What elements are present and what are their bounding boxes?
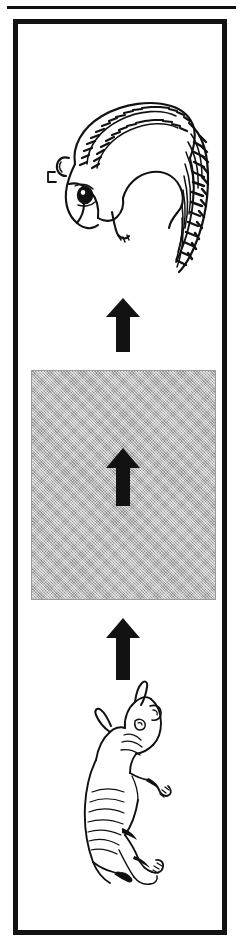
arrow-up-upper <box>105 298 141 352</box>
rhinoceros-illustration <box>62 680 190 895</box>
arrow-up-icon <box>105 298 141 352</box>
arrow-up-icon <box>105 618 141 680</box>
rhinoceros-icon <box>62 680 190 895</box>
arrow-up-lower <box>105 618 141 680</box>
chipmunk-illustration <box>28 72 216 277</box>
figure-panel <box>0 0 240 946</box>
arrow-up-icon <box>105 448 141 506</box>
arrow-up-middle <box>105 448 141 506</box>
diagram-stage <box>0 0 240 946</box>
chipmunk-icon <box>28 72 216 277</box>
